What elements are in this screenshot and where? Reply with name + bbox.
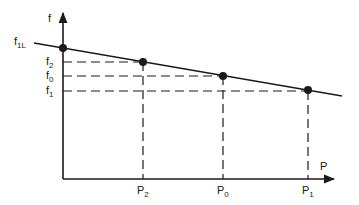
P0-label: P0	[217, 184, 229, 199]
f1L-label: f1L	[14, 35, 27, 50]
f1L-intercept-point	[59, 44, 67, 52]
f1L-line	[34, 43, 342, 96]
P1-label: P1	[302, 184, 314, 199]
y-axis-label: f	[48, 12, 52, 24]
f0-label: f0	[46, 69, 54, 84]
x-axis-label: P	[320, 160, 327, 172]
f2-label: f2	[46, 55, 54, 70]
P0-f0-point	[219, 72, 227, 80]
f1-label: f1	[46, 84, 54, 99]
P1-f1-point	[304, 86, 312, 94]
P2-f2-point	[139, 58, 147, 66]
f-vs-P-diagram: f P f1L f2 f0 f1 P2 P0 P1	[0, 0, 359, 205]
P2-label: P2	[137, 184, 149, 199]
